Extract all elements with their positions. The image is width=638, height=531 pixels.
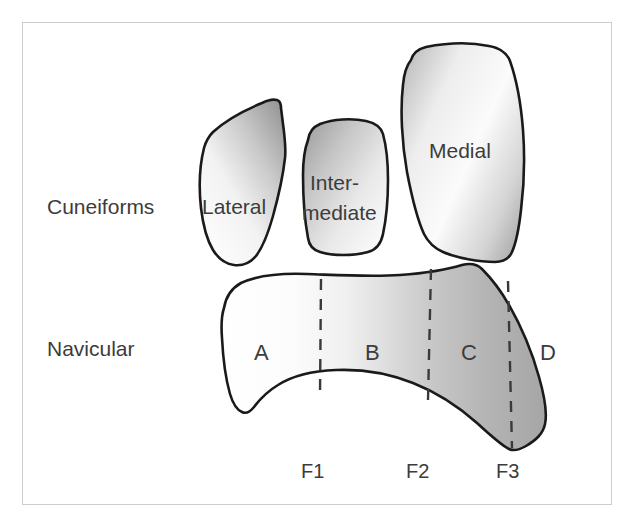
anatomical-diagram: Cuneiforms Lateral Inter- mediate Medial… xyxy=(0,0,638,531)
navicular-region-d: D xyxy=(540,340,556,365)
bone-navicular xyxy=(222,264,546,450)
bone-label-intermediate-line1: Inter- xyxy=(310,171,359,194)
figure-root: Cuneiforms Lateral Inter- mediate Medial… xyxy=(0,0,638,531)
bone-label-intermediate-line2: mediate xyxy=(302,201,377,224)
facet-marker-f3: F3 xyxy=(496,460,519,482)
bone-label-medial: Medial xyxy=(429,139,491,162)
facet-marker-f1: F1 xyxy=(301,460,324,482)
bone-label-navicular: Navicular xyxy=(47,337,135,360)
navicular-region-c: C xyxy=(461,340,477,365)
navicular-region-a: A xyxy=(254,340,269,365)
group-label-cuneiforms: Cuneiforms xyxy=(47,195,154,218)
bone-lateral-cuneiform xyxy=(200,100,286,266)
facet-marker-f2: F2 xyxy=(406,460,429,482)
bone-label-lateral: Lateral xyxy=(202,195,266,218)
navicular-region-b: B xyxy=(365,340,380,365)
